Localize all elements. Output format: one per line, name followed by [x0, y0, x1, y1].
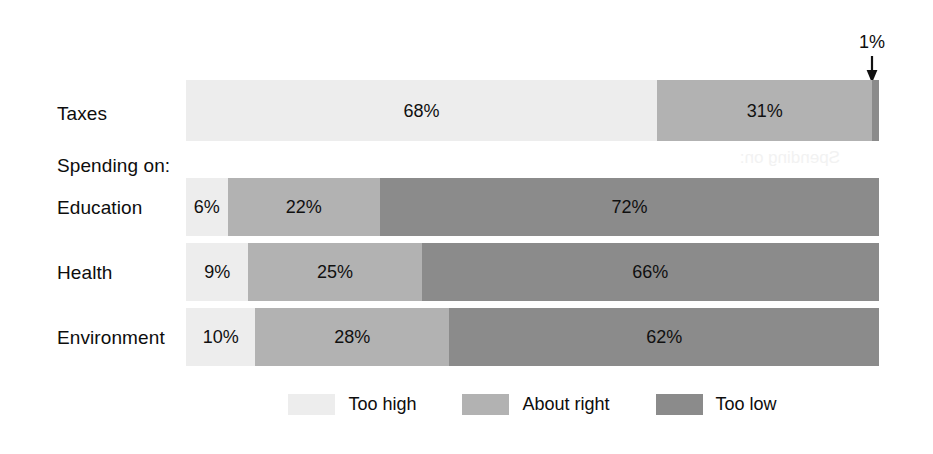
bar-segment-value: 62% — [646, 328, 682, 346]
bar-segment-environment-about-right: 28% — [255, 308, 449, 366]
bar-segment-taxes-about-right: 31% — [657, 80, 872, 141]
bar-segment-health-too-high: 9% — [186, 243, 248, 301]
legend-label: Too high — [348, 395, 416, 413]
bar-segment-education-too-low: 72% — [380, 178, 879, 236]
bar-environment: 10% 28% 62% — [186, 308, 879, 366]
bar-segment-health-too-low: 66% — [422, 243, 879, 301]
callout-label: 1% — [839, 33, 905, 51]
legend-item-too-high: Too high — [288, 394, 416, 415]
row-label-education: Education — [57, 198, 142, 217]
arrow-down-icon — [839, 54, 905, 83]
chart-legend: Too high About right Too low — [186, 391, 879, 417]
legend-label: About right — [522, 395, 609, 413]
bar-segment-value: 28% — [334, 328, 370, 346]
scan-bleed-artifact: Spending on: — [420, 148, 840, 168]
bar-segment-environment-too-high: 10% — [186, 308, 255, 366]
callout-annotation-1-percent: 1% — [839, 33, 905, 83]
bar-taxes: 68% 31% — [186, 80, 879, 141]
legend-swatch-icon — [462, 394, 509, 415]
legend-item-too-low: Too low — [656, 394, 777, 415]
group-header-spending-on: Spending on: — [57, 156, 170, 175]
row-label-taxes: Taxes — [57, 104, 107, 123]
bar-segment-value: 25% — [317, 263, 353, 281]
legend-label: Too low — [716, 395, 777, 413]
legend-item-about-right: About right — [462, 394, 609, 415]
bar-segment-value: 31% — [747, 102, 783, 120]
stacked-bar-chart-figure: Spending on: 1% Taxes 68% 31% Spending o… — [0, 0, 933, 454]
bar-segment-taxes-too-high: 68% — [186, 80, 657, 141]
bar-segment-value: 66% — [632, 263, 668, 281]
bar-segment-value: 68% — [404, 102, 440, 120]
legend-swatch-icon — [656, 394, 703, 415]
bar-segment-value: 72% — [611, 198, 647, 216]
bar-segment-taxes-too-low — [872, 80, 879, 141]
bar-segment-education-too-high: 6% — [186, 178, 228, 236]
row-label-environment: Environment — [57, 328, 165, 347]
bar-segment-education-about-right: 22% — [228, 178, 380, 236]
bar-education: 6% 22% 72% — [186, 178, 879, 236]
bar-segment-value: 10% — [203, 328, 239, 346]
legend-swatch-icon — [288, 394, 335, 415]
bar-health: 9% 25% 66% — [186, 243, 879, 301]
bar-segment-value: 6% — [194, 198, 220, 216]
row-label-health: Health — [57, 263, 113, 282]
bar-segment-environment-too-low: 62% — [449, 308, 879, 366]
bar-segment-health-about-right: 25% — [248, 243, 421, 301]
bar-segment-value: 9% — [204, 263, 230, 281]
bar-segment-value: 22% — [286, 198, 322, 216]
